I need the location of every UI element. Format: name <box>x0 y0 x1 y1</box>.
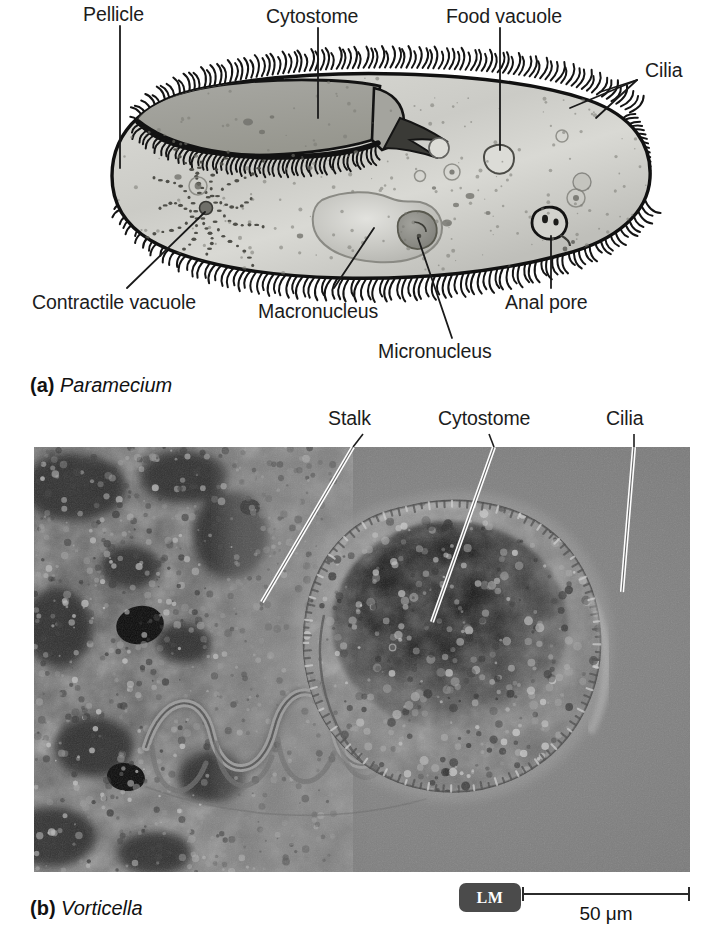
label-food-vacuole: Food vacuole <box>446 6 562 27</box>
micronucleus <box>398 211 437 249</box>
caption-b-organism: Vorticella <box>61 897 143 919</box>
food-vacuole-labeled <box>484 145 514 174</box>
scale-bar-rule <box>522 893 690 895</box>
caption-a-organism: Paramecium <box>60 374 172 396</box>
panel-a-paramecium-diagram: Pellicle Cytostome Food vacuole Cilia Co… <box>0 0 722 400</box>
label-contractile-vacuole: Contractile vacuole <box>32 292 196 313</box>
label-cilia: Cilia <box>645 60 682 81</box>
vorticella-micrograph-image <box>34 447 690 872</box>
label-anal-pore: Anal pore <box>505 292 588 313</box>
lm-badge-text: LM <box>459 883 521 912</box>
label-macronucleus: Macronucleus <box>258 301 378 322</box>
caption-b-tag: (b) <box>30 897 56 919</box>
label-cytostome: Cytostome <box>266 6 358 27</box>
scale-bar-label: 50 μm <box>522 903 690 925</box>
label-pellicle: Pellicle <box>83 4 144 25</box>
caption-panel-b: (b) Vorticella <box>30 897 143 920</box>
figure-ciliate-protists: Pellicle Cytostome Food vacuole Cilia Co… <box>0 0 722 943</box>
scale-bar <box>522 887 690 901</box>
scale-bar-tick-left <box>522 887 524 901</box>
scale-bar-tick-right <box>688 887 690 901</box>
panel-b-vorticella-micrograph: Stalk Cytostome Cilia <box>0 400 722 943</box>
caption-a-tag: (a) <box>30 374 54 396</box>
label-micronucleus: Micronucleus <box>378 341 492 362</box>
lm-micrograph-badge: LM <box>459 883 521 912</box>
paramecium-drawing <box>0 0 722 400</box>
caption-panel-a: (a) Paramecium <box>30 374 172 397</box>
